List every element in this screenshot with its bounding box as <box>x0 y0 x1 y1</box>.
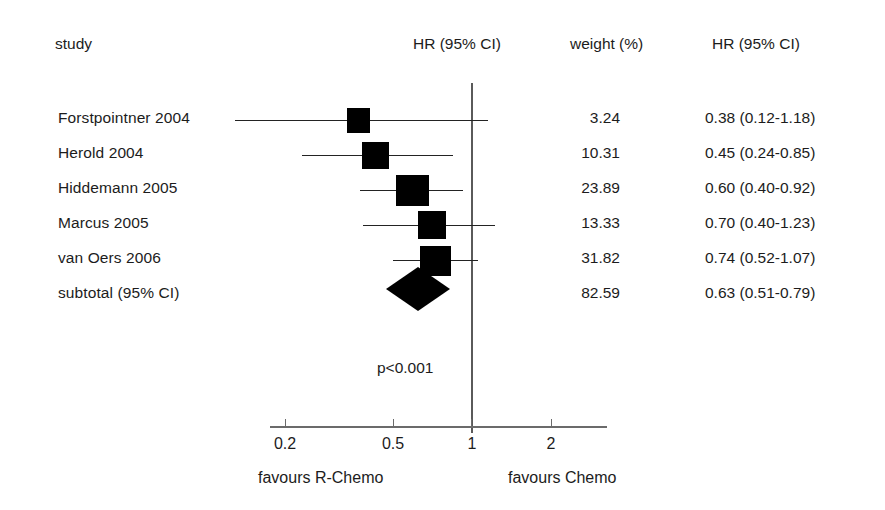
axis-tick <box>393 419 394 426</box>
axis-tick <box>471 419 472 426</box>
column-header-plot: HR (95% CI) <box>413 36 501 52</box>
study-label: Herold 2004 <box>58 145 144 161</box>
x-axis-line <box>270 426 607 428</box>
column-header-estimate: HR (95% CI) <box>712 36 800 52</box>
axis-tick <box>285 419 286 426</box>
weight-value: 13.33 <box>545 215 620 231</box>
estimate-value: 0.74 (0.52-1.07) <box>705 250 815 266</box>
estimate-value: 0.60 (0.40-0.92) <box>705 180 815 196</box>
axis-tick-label: 0.2 <box>245 436 325 452</box>
weight-value: 3.24 <box>545 110 620 126</box>
weight-value: 10.31 <box>545 145 620 161</box>
axis-tick-label: 1 <box>432 436 512 452</box>
column-header-weight: weight (%) <box>570 36 643 52</box>
study-label: van Oers 2006 <box>58 250 161 266</box>
effect-marker-box <box>362 142 389 169</box>
weight-value: 82.59 <box>545 285 620 301</box>
study-label: Forstpointner 2004 <box>58 110 190 126</box>
null-reference-line <box>471 83 473 433</box>
study-label: Marcus 2005 <box>58 215 149 231</box>
axis-tick-label: 0.5 <box>353 436 433 452</box>
weight-value: 23.89 <box>545 180 620 196</box>
weight-value: 31.82 <box>545 250 620 266</box>
axis-footer-right: favours Chemo <box>508 470 617 486</box>
axis-tick-label-text: 0.2 <box>274 435 296 452</box>
estimate-value: 0.38 (0.12-1.18) <box>705 110 815 126</box>
column-header-study: study <box>55 36 92 52</box>
estimate-value: 0.70 (0.40-1.23) <box>705 215 815 231</box>
axis-tick-label-text: 0.5 <box>382 435 404 452</box>
axis-tick-label-text: 1 <box>468 435 477 452</box>
effect-marker-box <box>347 108 370 133</box>
effect-marker-box <box>418 211 446 239</box>
effect-marker-box <box>396 175 429 206</box>
axis-tick-label-text: 2 <box>547 435 556 452</box>
pvalue-annotation: p<0.001 <box>377 360 433 376</box>
axis-footer-left: favours R-Chemo <box>258 470 383 486</box>
forest-plot-figure: study HR (95% CI) weight (%) HR (95% CI)… <box>0 0 885 510</box>
summary-label: subtotal (95% CI) <box>58 285 179 301</box>
estimate-value: 0.45 (0.24-0.85) <box>705 145 815 161</box>
summary-diamond <box>386 266 450 316</box>
study-label: Hiddemann 2005 <box>58 180 177 196</box>
axis-tick <box>551 419 552 426</box>
estimate-value: 0.63 (0.51-0.79) <box>705 285 815 301</box>
axis-tick-label: 2 <box>511 436 591 452</box>
